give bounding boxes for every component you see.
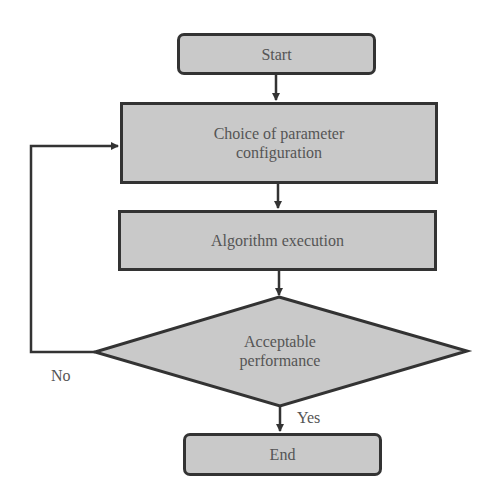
decision-node: Acceptable performance <box>180 323 380 379</box>
choice-label-line2: configuration <box>236 143 322 162</box>
start-node: Start <box>177 33 376 75</box>
edge-decision-choice-loop <box>31 146 118 352</box>
execution-label: Algorithm execution <box>211 231 344 250</box>
choice-label-line1: Choice of parameter <box>214 124 345 143</box>
no-label: No <box>51 367 71 385</box>
decision-label-line2: performance <box>240 351 321 370</box>
start-label: Start <box>261 45 291 64</box>
execution-node: Algorithm execution <box>118 210 437 271</box>
end-node: End <box>183 433 382 476</box>
yes-label: Yes <box>297 409 320 427</box>
decision-label-line1: Acceptable <box>244 332 316 351</box>
end-label: End <box>270 445 296 464</box>
choice-node: Choice of parameter configuration <box>120 102 438 184</box>
